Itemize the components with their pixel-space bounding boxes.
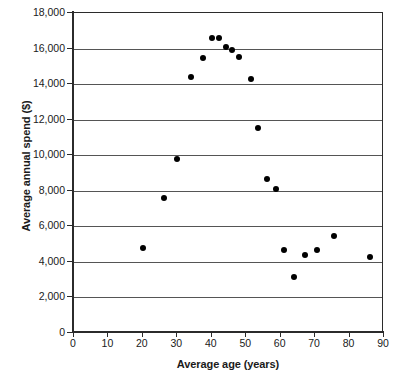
y-tick-label: 6,000 <box>5 220 65 230</box>
data-point <box>331 233 337 239</box>
data-point <box>188 74 194 80</box>
y-axis-tick-labels: 02,0004,0006,0008,00010,00012,00014,0001… <box>0 0 65 379</box>
data-point <box>281 247 287 253</box>
data-point <box>264 176 270 182</box>
gridline <box>74 155 382 156</box>
data-point <box>302 252 308 258</box>
scatter-chart: Average annual spend ($) 02,0004,0006,00… <box>0 0 396 379</box>
y-tick-label: 16,000 <box>5 43 65 53</box>
gridline <box>74 297 382 298</box>
y-tick-mark <box>67 119 73 120</box>
data-point <box>161 195 167 201</box>
gridline <box>74 120 382 121</box>
x-tick-mark <box>107 332 108 337</box>
x-tick-mark <box>349 332 350 337</box>
y-tick-mark <box>67 261 73 262</box>
x-tick-mark <box>211 332 212 337</box>
gridline <box>74 226 382 227</box>
y-tick-label: 2,000 <box>5 291 65 301</box>
y-tick-mark <box>67 83 73 84</box>
x-tick-mark <box>176 332 177 337</box>
y-tick-mark <box>67 190 73 191</box>
y-tick-label: 4,000 <box>5 256 65 266</box>
y-tick-label: 8,000 <box>5 185 65 195</box>
data-point <box>140 245 146 251</box>
data-point <box>229 47 235 53</box>
data-point <box>223 44 229 50</box>
plot-area <box>73 12 383 332</box>
y-tick-label: 10,000 <box>5 149 65 159</box>
y-tick-mark <box>67 12 73 13</box>
data-point <box>200 55 206 61</box>
data-point <box>255 125 261 131</box>
x-tick-mark <box>142 332 143 337</box>
x-tick-mark <box>73 332 74 337</box>
x-tick-mark <box>383 332 384 337</box>
data-point <box>273 186 279 192</box>
x-tick-mark <box>245 332 246 337</box>
y-tick-label: 18,000 <box>5 7 65 17</box>
data-point <box>174 156 180 162</box>
gridline <box>74 262 382 263</box>
data-point <box>236 54 242 60</box>
y-tick-mark <box>67 225 73 226</box>
data-point <box>248 76 254 82</box>
x-tick-mark <box>314 332 315 337</box>
x-axis-title: Average age (years) <box>73 358 383 370</box>
gridline <box>74 84 382 85</box>
y-tick-mark <box>67 48 73 49</box>
x-tick-label: 90 <box>363 338 396 349</box>
x-tick-mark <box>280 332 281 337</box>
data-point <box>291 274 297 280</box>
y-tick-label: 0 <box>5 327 65 337</box>
gridline <box>74 191 382 192</box>
data-point <box>314 247 320 253</box>
y-tick-mark <box>67 296 73 297</box>
y-tick-label: 12,000 <box>5 114 65 124</box>
data-point <box>209 35 215 41</box>
y-tick-mark <box>67 154 73 155</box>
y-tick-label: 14,000 <box>5 78 65 88</box>
data-point <box>367 254 373 260</box>
data-point <box>216 35 222 41</box>
